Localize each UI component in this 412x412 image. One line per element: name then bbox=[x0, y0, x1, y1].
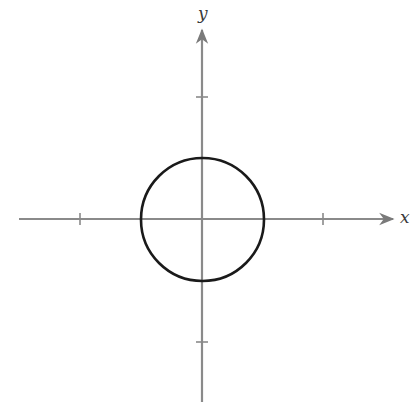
x-axis bbox=[19, 213, 393, 225]
chart-canvas: y x bbox=[0, 0, 412, 412]
y-axis-label: y bbox=[197, 3, 208, 23]
x-axis-label: x bbox=[400, 207, 410, 227]
y-axis bbox=[196, 30, 208, 402]
